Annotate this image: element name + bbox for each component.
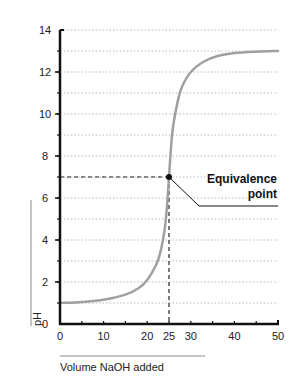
titration-chart: 02468101214 0102025304050 Equivalence po… <box>0 0 298 389</box>
annotation-label-line1: Equivalence <box>207 172 277 186</box>
x-tick-label: 10 <box>97 330 109 342</box>
y-tick-label: 4 <box>42 234 48 246</box>
x-tick-label: 20 <box>141 330 153 342</box>
x-tick-label: 25 <box>163 330 175 342</box>
x-tick-label: 40 <box>228 330 240 342</box>
y-tick-label: 2 <box>42 276 48 288</box>
y-tick-label: 14 <box>39 24 51 36</box>
x-tick-label: 30 <box>185 330 197 342</box>
x-tick-label: 50 <box>272 330 284 342</box>
x-tick-label: 0 <box>57 330 63 342</box>
y-tick-label: 6 <box>42 192 48 204</box>
y-axis-title: pH <box>31 312 43 326</box>
y-tick-label: 10 <box>39 108 51 120</box>
annotation-label-line2: point <box>248 187 277 201</box>
y-axis-ticks: 02468101214 <box>39 24 60 330</box>
gridlines <box>64 30 278 303</box>
y-tick-label: 12 <box>39 66 51 78</box>
x-axis-title: Volume NaOH added <box>60 361 164 373</box>
y-tick-label: 8 <box>42 150 48 162</box>
